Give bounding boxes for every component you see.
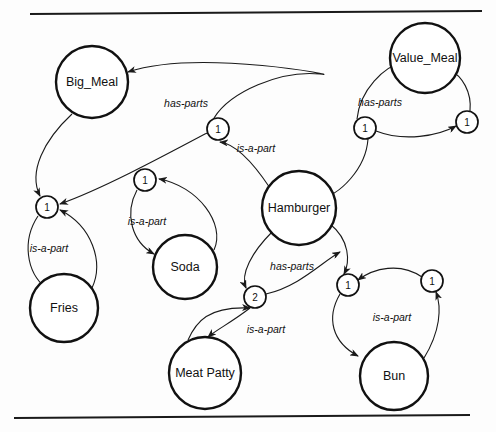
edge-label-e18: is-a-part: [373, 311, 413, 323]
edge-label-e4: is-a-part: [30, 242, 70, 254]
edge-card_bigmeal-to-big_meal: [128, 63, 324, 118]
entity-node-value_meal[interactable]: Value_Meal: [390, 23, 460, 93]
cardinality-label-card_vm_right: 1: [464, 117, 470, 128]
cardinality-node-card_soda[interactable]: 1: [134, 169, 156, 191]
entity-label-soda: Soda: [170, 260, 199, 274]
cardinality-label-card_fries: 1: [44, 202, 50, 213]
edge-card_meatpatty-to-card_bun: [266, 252, 340, 294]
edge-label-e10: has-parts: [358, 96, 403, 108]
edge-hamburger-to-card_meatpatty: [244, 232, 272, 288]
entity-label-meat_patty: Meat Patty: [175, 366, 235, 380]
edge-big_meal-to-card_fries: [36, 114, 72, 196]
edge-card_bun_right-to-card_bun: [358, 268, 422, 280]
edge-bun-to-card_bun_right: [424, 292, 439, 358]
entity-label-value_meal: Value_Meal: [392, 51, 457, 65]
cardinality-node-card_bun[interactable]: 1: [337, 274, 359, 296]
cardinality-node-card_meatpatty[interactable]: 2: [244, 286, 266, 308]
entity-label-bun: Bun: [383, 369, 405, 383]
cardinality-label-card_soda: 1: [142, 175, 148, 186]
entity-node-fries[interactable]: Fries: [30, 274, 98, 342]
entity-node-big_meal[interactable]: Big_Meal: [56, 46, 128, 118]
cardinality-node-card_fries[interactable]: 1: [36, 196, 58, 218]
edge-label-e1: has-parts: [164, 97, 209, 109]
bottom-rule: [14, 415, 470, 418]
entity-label-big_meal: Big_Meal: [66, 75, 118, 89]
cardinality-label-card_valuemeal: 1: [362, 123, 368, 134]
cardinality-node-card_bun_right[interactable]: 1: [421, 270, 443, 292]
top-rule: [30, 11, 482, 14]
edge-card_bigmeal-to-card_fries: [60, 133, 207, 204]
entity-label-fries: Fries: [50, 301, 78, 315]
entity-nodes-layer: Big_MealValue_MealHamburgerSodaFriesMeat…: [30, 23, 460, 410]
edge-label-e8: is-a-part: [237, 142, 277, 154]
cardinality-label-card_meatpatty: 2: [252, 292, 258, 303]
entity-node-hamburger[interactable]: Hamburger: [262, 171, 336, 245]
cardinality-nodes-layer: 11111211: [36, 111, 478, 308]
cardinality-node-card_bigmeal[interactable]: 1: [207, 118, 229, 140]
edge-meat_patty-to-card_meatpatty: [188, 308, 250, 340]
cardinality-node-card_valuemeal[interactable]: 1: [354, 117, 376, 139]
entity-node-meat_patty[interactable]: Meat Patty: [169, 337, 241, 409]
edge-label-e13: has-parts: [270, 260, 315, 272]
cardinality-label-card_bun: 1: [345, 280, 351, 291]
entity-label-hamburger: Hamburger: [268, 201, 331, 215]
entity-node-soda[interactable]: Soda: [153, 235, 217, 299]
edge-card_bun-to-bun: [333, 294, 358, 356]
edge-label-e6: is-a-part: [128, 215, 168, 227]
edge-hamburger-to-card_bun: [330, 224, 347, 274]
edge-label-e16: is-a-part: [247, 323, 287, 335]
cardinality-node-card_vm_right[interactable]: 1: [456, 111, 478, 133]
graph-canvas: has-partsis-a-partis-a-partis-a-parthas-…: [0, 0, 496, 432]
edge-card_valuemeal-to-card_vm_right: [376, 126, 456, 137]
entity-node-bun[interactable]: Bun: [360, 342, 428, 410]
cardinality-label-card_bigmeal: 1: [215, 124, 221, 135]
cardinality-label-card_bun_right: 1: [429, 276, 435, 287]
semantic-network-diagram: has-partsis-a-partis-a-partis-a-parthas-…: [0, 0, 496, 432]
